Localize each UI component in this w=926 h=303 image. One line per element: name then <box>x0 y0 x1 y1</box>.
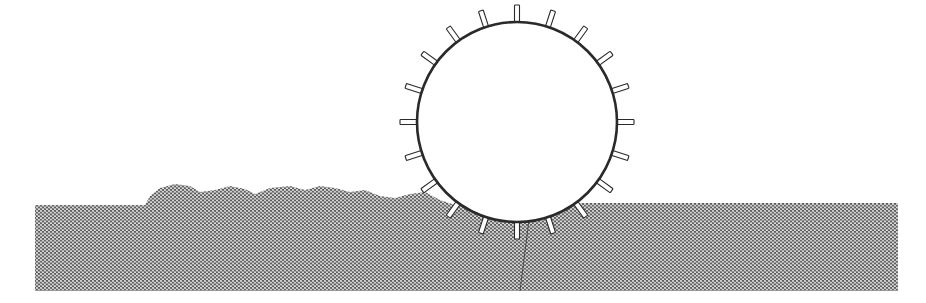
ground-layer <box>35 200 898 291</box>
wheel-lug-icon <box>616 120 634 125</box>
wheel-lug-icon <box>515 5 520 23</box>
particle-bed <box>35 200 898 291</box>
pile-layer <box>145 184 440 212</box>
wheel-lug-icon <box>400 120 418 125</box>
displaced-particle-pile <box>145 184 440 212</box>
wheel-soil-diagram <box>0 0 926 303</box>
wheel-rim <box>417 22 617 222</box>
wheel-lug-icon <box>515 221 520 239</box>
